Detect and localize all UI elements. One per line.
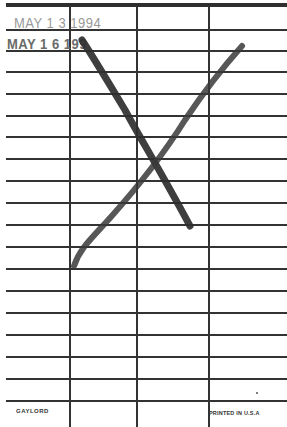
due-date-card: MAY 1 3 1994 MAY 1 6 199 GAYLORD PRINTED… <box>0 0 287 427</box>
publisher-label: GAYLORD <box>16 408 49 414</box>
printed-in-label: PRINTED IN U.S.A <box>209 410 260 416</box>
paper-speck <box>256 392 258 394</box>
cross-out-mark-icon <box>0 0 287 427</box>
